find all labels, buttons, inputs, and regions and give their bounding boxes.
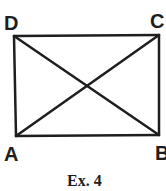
edge-da (14, 36, 16, 136)
edge-cd (14, 35, 159, 36)
vertex-label-d: D (4, 12, 18, 34)
vertex-label-a: A (4, 143, 18, 165)
rectangle-diagram: D C A B Ex. 4 (0, 0, 166, 191)
vertex-label-b: B (155, 142, 166, 164)
vertex-label-c: C (150, 10, 164, 32)
figure-caption: Ex. 4 (67, 172, 102, 189)
edge-ab (16, 135, 159, 136)
